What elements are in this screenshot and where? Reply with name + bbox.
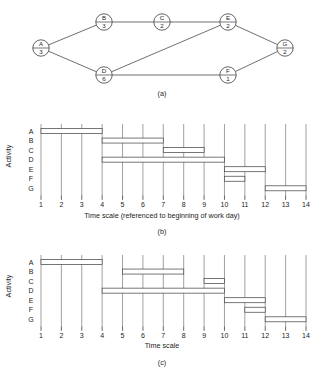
- network-node-f[interactable]: F1: [220, 67, 236, 83]
- node-label-f: F: [226, 67, 230, 74]
- tick-label-day-2: 2: [59, 332, 63, 339]
- tick-label-day-5: 5: [121, 201, 125, 208]
- node-duration-c: 2: [160, 22, 164, 29]
- node-duration-a: 3: [39, 48, 43, 55]
- network-edge-a-d: [49, 51, 97, 72]
- gantt-b-tick-labels-group: 1234567891011121314: [39, 201, 310, 208]
- gantt-c-tick-labels-group: 1234567891011121314: [39, 332, 310, 339]
- tick-label-day-3: 3: [80, 332, 84, 339]
- tick-label-day-4: 4: [100, 201, 104, 208]
- network-nodes-group: A3B3C2D6E2F1G2: [33, 14, 293, 83]
- node-label-e: E: [226, 14, 230, 21]
- tick-label-day-8: 8: [182, 201, 186, 208]
- network-node-e[interactable]: E2: [220, 14, 236, 30]
- tick-label-day-7: 7: [161, 332, 165, 339]
- gantt-c-bars-group: [41, 260, 306, 322]
- tick-label-day-4: 4: [100, 332, 104, 339]
- network-node-a[interactable]: A3: [33, 40, 49, 56]
- row-label-c: C: [28, 147, 33, 154]
- gantt-c-y-axis-title: Activity: [4, 274, 13, 297]
- gantt-bar-c[interactable]: [204, 279, 224, 284]
- gantt-bar-g[interactable]: [265, 186, 306, 191]
- gantt-bar-b[interactable]: [123, 269, 184, 274]
- row-label-f: F: [29, 306, 33, 313]
- network-node-b[interactable]: B3: [96, 14, 112, 30]
- row-label-a: A: [29, 128, 34, 135]
- tick-label-day-13: 13: [282, 332, 290, 339]
- tick-label-day-1: 1: [39, 201, 43, 208]
- figure-container: A3B3C2D6E2F1G2 (a) 1234567891011121314 A…: [0, 0, 324, 381]
- gantt-bar-b[interactable]: [102, 138, 163, 143]
- network-node-g[interactable]: G2: [277, 40, 293, 56]
- network-diagram-panel: A3B3C2D6E2F1G2 (a): [0, 0, 324, 108]
- node-label-g: G: [283, 40, 288, 47]
- gantt-bar-f[interactable]: [224, 176, 244, 181]
- node-duration-d: 6: [102, 75, 106, 82]
- tick-label-day-13: 13: [282, 201, 290, 208]
- tick-label-day-6: 6: [141, 332, 145, 339]
- gantt-c-x-axis-title: Time scale: [145, 341, 179, 350]
- network-edge-d-e: [112, 25, 221, 72]
- row-label-b: B: [29, 137, 34, 144]
- node-label-d: D: [102, 67, 107, 74]
- panel-c-caption: (c): [158, 358, 166, 367]
- network-edge-f-g: [235, 52, 277, 72]
- tick-label-day-10: 10: [221, 332, 229, 339]
- row-label-g: G: [28, 316, 33, 323]
- row-label-d: D: [28, 287, 33, 294]
- row-label-e: E: [29, 297, 34, 304]
- gantt-bar-a[interactable]: [41, 129, 102, 134]
- network-edge-e-g: [235, 25, 277, 44]
- row-label-g: G: [28, 185, 33, 192]
- node-label-c: C: [160, 14, 165, 21]
- tick-label-day-9: 9: [202, 201, 206, 208]
- gantt-b-x-axis-title: Time scale (referenced to beginning of w…: [84, 211, 240, 220]
- tick-label-day-10: 10: [221, 201, 229, 208]
- tick-label-day-2: 2: [59, 201, 63, 208]
- row-label-b: B: [29, 268, 34, 275]
- row-label-d: D: [28, 156, 33, 163]
- gantt-bar-d[interactable]: [102, 157, 224, 162]
- node-duration-b: 3: [102, 22, 106, 29]
- node-duration-g: 2: [283, 48, 287, 55]
- row-label-f: F: [29, 175, 33, 182]
- row-label-e: E: [29, 166, 34, 173]
- tick-label-day-11: 11: [241, 201, 248, 208]
- node-duration-e: 2: [226, 22, 230, 29]
- gantt-bar-e[interactable]: [224, 167, 265, 172]
- tick-label-day-7: 7: [161, 201, 165, 208]
- gantt-bar-f[interactable]: [245, 307, 265, 312]
- tick-label-day-8: 8: [182, 332, 186, 339]
- panel-a-caption: (a): [158, 89, 167, 98]
- tick-label-day-6: 6: [141, 201, 145, 208]
- gantt-chart-panel-b: 1234567891011121314 ABCDEFG Activity Tim…: [0, 108, 324, 238]
- tick-label-day-14: 14: [302, 201, 310, 208]
- gantt-b-row-labels-group: ABCDEFG: [28, 128, 33, 192]
- tick-label-day-3: 3: [80, 201, 84, 208]
- network-node-c[interactable]: C2: [154, 14, 170, 30]
- node-label-b: B: [102, 14, 106, 21]
- gantt-bar-g[interactable]: [265, 317, 306, 322]
- network-node-d[interactable]: D6: [96, 67, 112, 83]
- gantt-b-ticks-group: [41, 195, 306, 200]
- tick-label-day-12: 12: [261, 332, 269, 339]
- tick-label-day-11: 11: [241, 332, 248, 339]
- gantt-b-y-axis-title: Activity: [4, 144, 13, 167]
- gantt-c-ticks-group: [41, 326, 306, 331]
- network-edge-a-b: [49, 25, 97, 45]
- row-label-c: C: [28, 278, 33, 285]
- tick-label-day-9: 9: [202, 332, 206, 339]
- tick-label-day-14: 14: [302, 332, 310, 339]
- gantt-bar-c[interactable]: [163, 148, 204, 153]
- gantt-bar-d[interactable]: [102, 288, 224, 293]
- tick-label-day-1: 1: [39, 332, 43, 339]
- tick-label-day-12: 12: [261, 201, 269, 208]
- gantt-bar-e[interactable]: [224, 298, 265, 303]
- gantt-chart-panel-c: 1234567891011121314 ABCDEFG Activity Tim…: [0, 238, 324, 381]
- gantt-c-row-labels-group: ABCDEFG: [28, 259, 33, 323]
- gantt-bar-a[interactable]: [41, 260, 102, 265]
- node-duration-f: 1: [226, 75, 230, 82]
- gantt-b-bars-group: [41, 129, 306, 191]
- tick-label-day-5: 5: [121, 332, 125, 339]
- row-label-a: A: [29, 259, 34, 266]
